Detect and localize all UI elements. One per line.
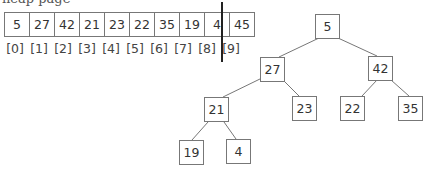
- tree-node-21: 21: [204, 97, 229, 122]
- edge-5-27: [279, 38, 319, 57]
- edge-21-19: [192, 122, 208, 140]
- tree-node-35: 35: [398, 96, 423, 121]
- edge-27-23: [283, 80, 299, 96]
- tree-node-4: 4: [226, 139, 251, 164]
- edge-27-21: [223, 78, 262, 97]
- edge-42-22: [362, 80, 377, 96]
- tree-edges: [0, 0, 429, 174]
- tree-node-19: 19: [179, 140, 204, 165]
- edge-21-4: [224, 122, 236, 139]
- tree-node-23: 23: [292, 96, 317, 121]
- edge-42-35: [391, 80, 409, 96]
- tree-node-27: 27: [260, 57, 285, 82]
- edge-5-42: [338, 38, 377, 56]
- tree-node-root: 5: [315, 14, 340, 39]
- tree-node-42: 42: [368, 56, 393, 81]
- tree-node-22: 22: [340, 96, 365, 121]
